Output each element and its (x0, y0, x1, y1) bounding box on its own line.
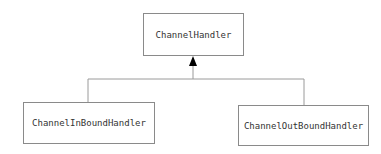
node-label: ChannelInBoundHandler (32, 118, 146, 128)
node-label: ChannelOutBoundHandler (244, 121, 363, 131)
node-channel-inbound-handler: ChannelInBoundHandler (23, 102, 155, 144)
diagram-canvas: ChannelHandler ChannelInBoundHandler Cha… (0, 0, 381, 154)
inheritance-arrow-icon (189, 56, 197, 66)
node-label: ChannelHandler (156, 30, 232, 40)
node-channel-outbound-handler: ChannelOutBoundHandler (238, 105, 369, 146)
node-channel-handler: ChannelHandler (143, 13, 244, 56)
